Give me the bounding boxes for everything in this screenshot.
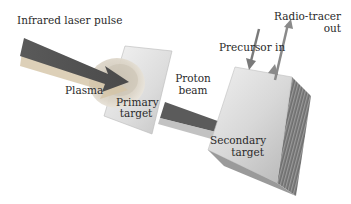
laser-label: Infrared laser pulse xyxy=(17,15,122,26)
radiotracer-label-line2: out xyxy=(270,23,341,34)
plasma-label: Plasma xyxy=(65,85,103,96)
diagram: Infrared laser pulse Plasma Primary targ… xyxy=(0,0,351,204)
radiotracer-label-line1: Radio-tracer xyxy=(270,11,341,22)
precursor-label: Precursor in xyxy=(219,42,285,53)
proton-beam-label-line1: Proton xyxy=(172,73,214,84)
secondary-target-label-line2: target xyxy=(210,147,264,158)
proton-beam-label-line2: beam xyxy=(172,85,214,96)
secondary-target-label-line1: Secondary xyxy=(210,135,264,146)
primary-target-label-line2: target xyxy=(116,108,156,119)
secondary-target-block xyxy=(208,67,311,196)
